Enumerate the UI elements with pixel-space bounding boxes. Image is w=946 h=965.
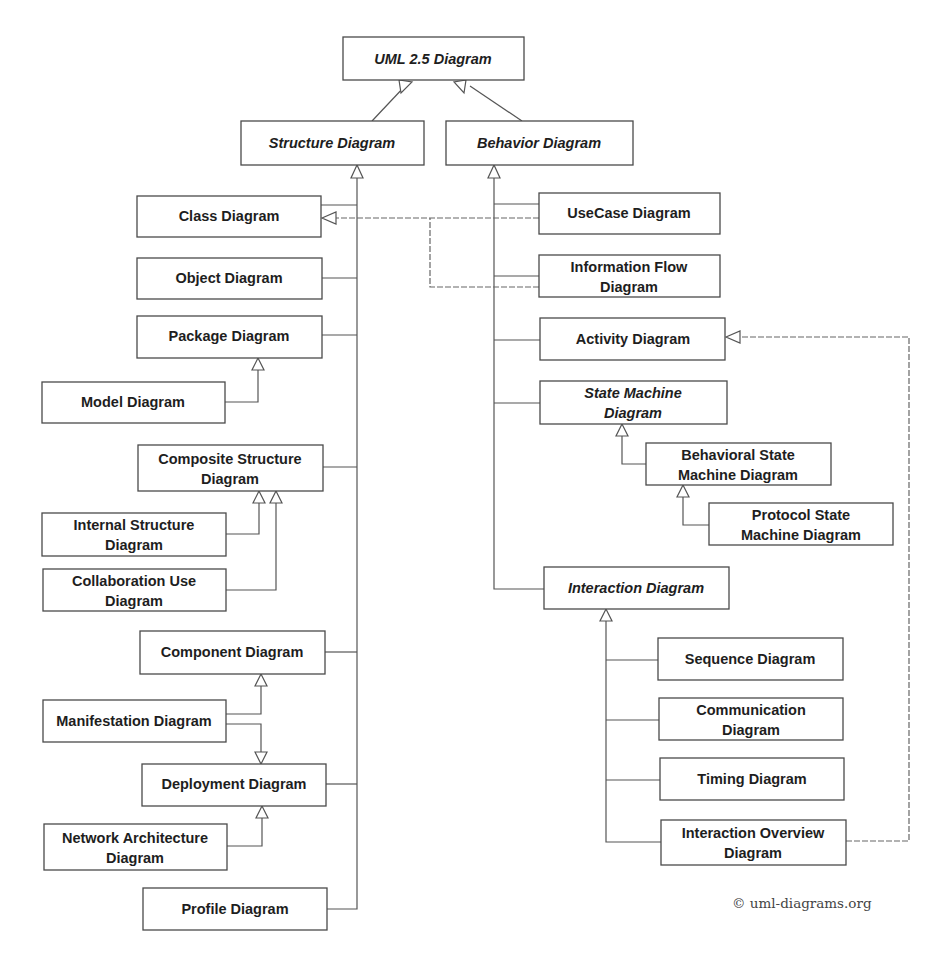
node-interactionoverview[interactable]: Interaction Overview Diagram — [661, 820, 846, 865]
edge-behavior-uml — [470, 86, 522, 121]
edge-behavioralstate-statemachine — [622, 436, 646, 464]
generalization-arrow-icon — [253, 491, 265, 503]
node-label: Information Flow — [571, 259, 689, 275]
node-label: Component Diagram — [161, 644, 304, 660]
generalization-arrow-icon — [454, 80, 466, 93]
edge-network-deployment — [227, 818, 262, 846]
node-activity[interactable]: Activity Diagram — [540, 318, 725, 360]
node-label: Diagram — [105, 593, 163, 609]
generalization-arrow-icon — [322, 212, 336, 224]
node-behavior[interactable]: Behavior Diagram — [446, 121, 633, 165]
node-label: Diagram — [724, 845, 782, 861]
node-label: Object Diagram — [175, 270, 282, 286]
node-label: Machine Diagram — [678, 467, 798, 483]
generalization-arrow-icon — [351, 165, 363, 178]
node-label: State Machine — [584, 385, 682, 401]
node-class[interactable]: Class Diagram — [137, 196, 321, 237]
node-communication[interactable]: Communication Diagram — [659, 698, 843, 740]
node-label: Diagram — [604, 405, 662, 421]
node-internal[interactable]: Internal Structure Diagram — [42, 513, 226, 556]
node-label: Behavioral State — [681, 447, 795, 463]
node-label: Network Architecture — [62, 830, 208, 846]
node-timing[interactable]: Timing Diagram — [660, 758, 844, 800]
node-model[interactable]: Model Diagram — [42, 382, 225, 423]
node-label: Diagram — [105, 537, 163, 553]
copyright-text: © uml-diagrams.org — [732, 895, 872, 911]
node-label: Class Diagram — [179, 208, 280, 224]
node-deployment[interactable]: Deployment Diagram — [142, 764, 326, 806]
edge-infoflow-class — [430, 218, 539, 287]
edge-collaboration-composite — [226, 503, 276, 590]
node-label: Protocol State — [752, 507, 850, 523]
node-behavioralstate[interactable]: Behavioral State Machine Diagram — [646, 443, 831, 485]
generalization-arrow-icon — [677, 485, 689, 497]
edge-manifestation-component — [226, 686, 261, 714]
node-label: Composite Structure — [158, 451, 301, 467]
node-manifestation[interactable]: Manifestation Diagram — [43, 700, 226, 742]
edge-internal-composite — [226, 503, 259, 534]
node-interaction[interactable]: Interaction Diagram — [544, 567, 729, 609]
node-label: Behavior Diagram — [477, 135, 601, 151]
node-label: Collaboration Use — [72, 573, 196, 589]
node-structure[interactable]: Structure Diagram — [241, 121, 424, 165]
node-object[interactable]: Object Diagram — [137, 258, 322, 299]
node-label: Sequence Diagram — [685, 651, 816, 667]
node-network[interactable]: Network Architecture Diagram — [44, 824, 227, 870]
uml-diagram-hierarchy: UML 2.5 Diagram Structure Diagram Behavi… — [0, 0, 946, 965]
node-label: Interaction Diagram — [568, 580, 704, 596]
node-protocolstate[interactable]: Protocol State Machine Diagram — [709, 503, 893, 545]
generalization-arrow-icon — [600, 609, 612, 621]
node-collaboration[interactable]: Collaboration Use Diagram — [43, 569, 226, 611]
node-label: Machine Diagram — [741, 527, 861, 543]
edge-structure-uml — [372, 86, 405, 121]
node-label: Activity Diagram — [576, 331, 690, 347]
node-label: Interaction Overview — [682, 825, 825, 841]
interaction-trunk — [606, 621, 661, 842]
generalization-arrow-icon — [399, 80, 412, 93]
node-uml[interactable]: UML 2.5 Diagram — [343, 37, 524, 80]
generalization-arrow-icon — [726, 331, 740, 343]
node-label: Timing Diagram — [697, 771, 806, 787]
node-label: Communication — [696, 702, 806, 718]
node-infoflow[interactable]: Information Flow Diagram — [539, 255, 720, 297]
node-label: Profile Diagram — [181, 901, 288, 917]
generalization-arrow-icon — [488, 165, 500, 178]
node-profile[interactable]: Profile Diagram — [143, 888, 327, 930]
node-composite[interactable]: Composite Structure Diagram — [138, 445, 323, 491]
edge-model-package — [225, 370, 258, 402]
structure-trunk — [327, 178, 357, 909]
node-label: Internal Structure — [74, 517, 195, 533]
edge-manifestation-deployment — [226, 724, 261, 752]
node-label: Package Diagram — [169, 328, 290, 344]
generalization-arrow-icon — [256, 806, 268, 818]
generalization-arrow-icon — [255, 752, 267, 764]
behavior-trunk — [494, 178, 544, 589]
node-label: Manifestation Diagram — [56, 713, 212, 729]
edge-protocolstate-behavioralstate — [683, 497, 709, 525]
generalization-arrow-icon — [252, 358, 264, 370]
generalization-arrow-icon — [616, 424, 628, 436]
node-label: UML 2.5 Diagram — [374, 51, 491, 67]
node-label: Model Diagram — [81, 394, 185, 410]
node-statemachine[interactable]: State Machine Diagram — [540, 381, 727, 424]
node-package[interactable]: Package Diagram — [137, 316, 322, 358]
generalization-arrow-icon — [255, 674, 267, 686]
node-label: Diagram — [600, 279, 658, 295]
node-label: Diagram — [106, 850, 164, 866]
generalization-arrow-icon — [270, 491, 282, 503]
node-label: Deployment Diagram — [161, 776, 306, 792]
node-label: UseCase Diagram — [567, 205, 690, 221]
node-usecase[interactable]: UseCase Diagram — [539, 193, 720, 234]
node-sequence[interactable]: Sequence Diagram — [658, 638, 843, 680]
node-component[interactable]: Component Diagram — [140, 631, 325, 674]
node-label: Diagram — [722, 722, 780, 738]
node-label: Diagram — [201, 471, 259, 487]
node-label: Structure Diagram — [269, 135, 396, 151]
